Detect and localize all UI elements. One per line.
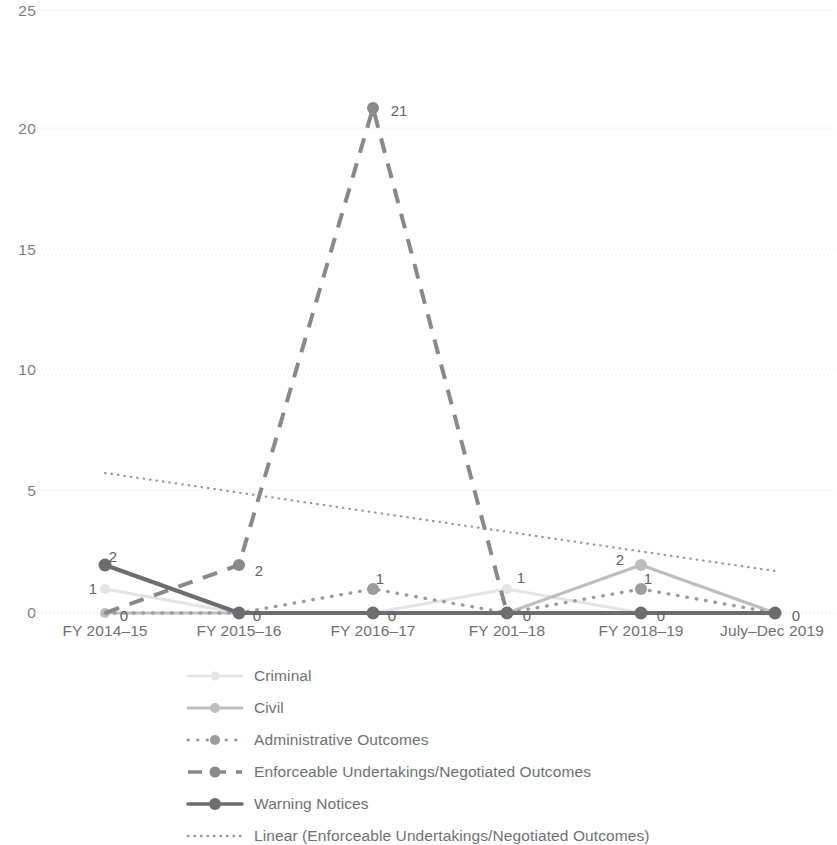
data-label-criminal-fy2014: 1 [89, 580, 97, 597]
x-axis-tick-fy2017-18: FY 201–18 [469, 622, 545, 640]
legend-item-linear-trendline[interactable]: Linear (Enforceable Undertakings/Negotia… [186, 820, 806, 845]
data-label-administrative-fy2018: 1 [644, 570, 652, 587]
series-enforceable-undertakings [105, 102, 775, 613]
data-label-zero-fy2015: 0 [253, 607, 261, 624]
data-label-zero-fy2014: 0 [120, 607, 128, 624]
data-label-enforceable-fy2015: 2 [255, 562, 263, 579]
legend-key-criminal-icon [186, 667, 244, 685]
legend-item-administrative-outcomes[interactable]: Administrative Outcomes [186, 724, 806, 756]
series-warning-notices [99, 559, 782, 620]
data-label-zero-fy2017: 0 [523, 607, 531, 624]
line-chart: 25 20 15 10 5 0 [0, 0, 837, 845]
x-axis-tick-fy2015-16: FY 2015–16 [196, 622, 281, 640]
legend-label-criminal: Criminal [254, 667, 312, 685]
series-civil [100, 559, 780, 618]
legend-key-civil-icon [186, 699, 244, 717]
series-linear-trendline [105, 473, 775, 571]
legend-key-warning-notices-icon [186, 795, 244, 813]
data-label-zero-julydec2019: 0 [792, 607, 800, 624]
legend-item-warning-notices[interactable]: Warning Notices [186, 788, 806, 820]
legend-label-warning-notices: Warning Notices [254, 795, 369, 813]
legend-item-criminal[interactable]: Criminal [186, 660, 806, 692]
data-label-civil-fy2018: 2 [616, 551, 624, 568]
chart-legend: Criminal Civil Administrative Outcomes [186, 660, 806, 845]
legend-key-linear-trendline-icon [186, 827, 244, 845]
legend-item-enforceable-undertakings[interactable]: Enforceable Undertakings/Negotiated Outc… [186, 756, 806, 788]
data-label-zero-fy2016: 0 [388, 607, 396, 624]
x-axis-tick-fy2016-17: FY 2016–17 [330, 622, 415, 640]
x-axis-tick-fy2018-19: FY 2018–19 [598, 622, 683, 640]
x-axis-tick-fy2014-15: FY 2014–15 [62, 622, 147, 640]
legend-label-enforceable-undertakings: Enforceable Undertakings/Negotiated Outc… [254, 763, 591, 781]
legend-label-civil: Civil [254, 699, 284, 717]
legend-label-linear-trendline: Linear (Enforceable Undertakings/Negotia… [254, 827, 650, 845]
legend-item-civil[interactable]: Civil [186, 692, 806, 724]
legend-key-administrative-outcomes-icon [186, 731, 244, 749]
legend-label-administrative-outcomes: Administrative Outcomes [254, 731, 429, 749]
gridlines [33, 10, 837, 613]
legend-key-enforceable-undertakings-icon [186, 763, 244, 781]
data-label-enforceable-fy2016: 21 [391, 102, 408, 119]
data-label-criminal-fy2017: 1 [517, 569, 525, 586]
data-label-zero-fy2018: 0 [657, 607, 665, 624]
data-label-warning-fy2014: 2 [109, 548, 117, 565]
data-label-administrative-fy2016: 1 [376, 570, 384, 587]
x-axis-tick-julydec2019: July–Dec 2019 [720, 622, 824, 640]
